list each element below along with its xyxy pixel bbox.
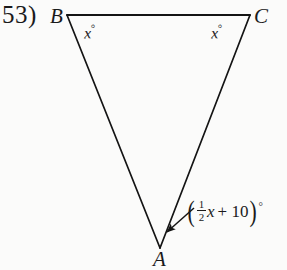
triangle-diagram-canvas	[0, 0, 287, 270]
geometry-figure: 53) B C A x° x° ( 1 2 x + 10 ) °	[0, 0, 287, 270]
vertex-label-a: A	[153, 249, 166, 270]
angle-label-b: x°	[84, 23, 96, 42]
angle-a-variable: x	[207, 203, 215, 220]
close-paren: )	[250, 199, 257, 223]
angle-a-addend: + 10	[218, 203, 249, 220]
angle-label-a: ( 1 2 x + 10 ) °	[186, 199, 263, 223]
fraction-one-half: 1 2	[197, 199, 206, 223]
degree-symbol-a: °	[258, 201, 262, 212]
vertex-label-c: C	[254, 6, 268, 27]
degree-symbol-b: °	[91, 22, 96, 34]
degree-symbol-c: °	[218, 22, 223, 34]
fraction-denominator: 2	[198, 212, 206, 223]
vertex-label-b: B	[50, 6, 63, 27]
open-paren: (	[187, 199, 194, 223]
problem-number: 53)	[2, 2, 37, 27]
triangle-side-ba	[67, 15, 160, 248]
fraction-numerator: 1	[198, 199, 206, 210]
angle-label-c: x°	[211, 23, 223, 42]
